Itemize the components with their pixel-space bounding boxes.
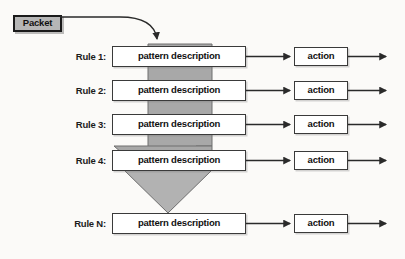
pattern-to-action-arrow bbox=[246, 213, 296, 234]
pattern-to-action-arrow bbox=[246, 150, 296, 171]
action-output-arrow bbox=[348, 114, 393, 135]
pattern-description-box[interactable]: pattern description bbox=[112, 46, 246, 67]
rule-row: Rule 1: pattern description action bbox=[0, 46, 405, 68]
pattern-to-action-arrow bbox=[246, 80, 296, 101]
rule-row: Rule 3: pattern description action bbox=[0, 114, 405, 136]
action-output-arrow bbox=[348, 213, 393, 234]
pattern-to-action-arrow bbox=[246, 114, 296, 135]
action-box[interactable]: action bbox=[294, 151, 348, 170]
pattern-to-action-arrow bbox=[246, 46, 296, 67]
action-box[interactable]: action bbox=[294, 47, 348, 66]
pattern-description-box[interactable]: pattern description bbox=[112, 80, 246, 101]
pattern-description-box[interactable]: pattern description bbox=[112, 114, 246, 135]
rule-matching-diagram: Packet Rule 1: pattern description actio… bbox=[0, 0, 405, 259]
packet-entry-arrow bbox=[58, 8, 178, 50]
action-output-arrow bbox=[348, 150, 393, 171]
rule-label: Rule 2: bbox=[48, 80, 106, 102]
rule-label: Rule 4: bbox=[48, 150, 106, 172]
action-output-arrow bbox=[348, 80, 393, 101]
rule-row: Rule 2: pattern description action bbox=[0, 80, 405, 102]
action-box[interactable]: action bbox=[294, 115, 348, 134]
rule-row: Rule 4: pattern description action bbox=[0, 150, 405, 172]
pattern-description-box[interactable]: pattern description bbox=[112, 213, 246, 234]
action-box[interactable]: action bbox=[294, 81, 348, 100]
pattern-description-box[interactable]: pattern description bbox=[112, 150, 246, 171]
rule-row: Rule N: pattern description action bbox=[0, 213, 405, 235]
packet-label-box: Packet bbox=[13, 15, 62, 32]
rule-label: Rule N: bbox=[48, 213, 106, 235]
rule-label: Rule 3: bbox=[48, 114, 106, 136]
rule-label: Rule 1: bbox=[48, 46, 106, 68]
action-output-arrow bbox=[348, 46, 393, 67]
action-box[interactable]: action bbox=[294, 214, 348, 233]
